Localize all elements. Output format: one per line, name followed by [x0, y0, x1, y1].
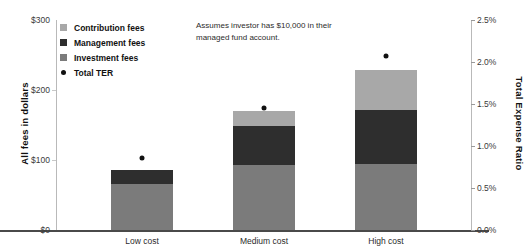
y-axis-right-tick-mark: [471, 62, 475, 63]
y-axis-right-title: Total Expense Ratio: [514, 54, 525, 194]
y-axis-left-title: All fees in dollars: [19, 54, 30, 194]
y-axis-left-tick-label: $100: [31, 155, 50, 165]
bar-segment[interactable]: [233, 126, 295, 165]
bar-segment[interactable]: [355, 110, 417, 163]
bar-group[interactable]: [355, 70, 417, 230]
chart-figure: All fees in dollars Total Expense Ratio …: [0, 0, 525, 249]
bar-segment[interactable]: [233, 111, 295, 126]
legend-item[interactable]: Investment fees: [60, 50, 190, 65]
y-axis-right-tick-label: 1.0%: [477, 141, 496, 151]
bar-segment[interactable]: [355, 70, 417, 111]
y-axis-left-tick-label: $300: [31, 15, 50, 25]
x-axis-category-label: High cost: [368, 236, 403, 246]
bar-segment[interactable]: [111, 170, 173, 184]
legend-item-label: Management fees: [74, 38, 145, 48]
y-axis-right-tick-label: 2.0%: [477, 57, 496, 67]
x-axis-category-label: Medium cost: [240, 236, 288, 246]
y-axis-right-tick-mark: [471, 230, 475, 231]
legend-item-label: Investment fees: [74, 53, 138, 63]
y-axis-right-tick-mark: [471, 188, 475, 189]
y-axis-left-tick-label: $200: [31, 85, 50, 95]
bar-segment[interactable]: [355, 164, 417, 231]
x-axis-category-label: Low cost: [125, 236, 159, 246]
bar-group[interactable]: [233, 111, 295, 230]
axis-spine-bottom: [0, 230, 489, 232]
y-axis-right-tick-label: 1.5%: [477, 99, 496, 109]
legend-square-icon: [60, 54, 67, 61]
legend-item-label: Contribution fees: [74, 23, 144, 33]
y-axis-right-tick-mark: [471, 104, 475, 105]
legend-square-icon: [60, 39, 67, 46]
total-ter-dot[interactable]: [140, 155, 145, 160]
legend-item[interactable]: Total TER: [60, 65, 190, 80]
bar-group[interactable]: [111, 170, 173, 230]
legend-square-icon: [60, 24, 67, 31]
bar-segment[interactable]: [233, 165, 295, 230]
axis-spine-right: [471, 20, 472, 230]
y-axis-right-tick-label: 0.5%: [477, 183, 496, 193]
legend-item-label: Total TER: [74, 68, 113, 78]
chart-legend: Contribution feesManagement feesInvestme…: [60, 20, 190, 80]
y-axis-right-tick-mark: [471, 20, 475, 21]
legend-item[interactable]: Management fees: [60, 35, 190, 50]
chart-annotation-note: Assumes investor has $10,000 in their ma…: [196, 20, 346, 43]
total-ter-dot[interactable]: [262, 106, 267, 111]
bar-segment[interactable]: [111, 184, 173, 230]
y-axis-right-tick-label: 0.0%: [477, 225, 496, 235]
legend-dot-icon: [61, 70, 66, 75]
y-axis-right-tick-label: 2.5%: [477, 15, 496, 25]
total-ter-dot[interactable]: [384, 54, 389, 59]
legend-item[interactable]: Contribution fees: [60, 20, 190, 35]
y-axis-left-tick-label: $0: [41, 225, 50, 235]
y-axis-right-tick-mark: [471, 146, 475, 147]
